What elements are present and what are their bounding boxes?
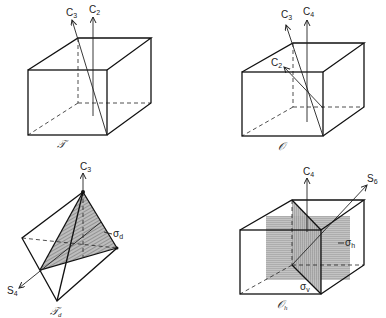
c3-axis-O bbox=[286, 25, 323, 136]
cube-O bbox=[242, 43, 364, 136]
label-c3-T: C3 bbox=[66, 7, 77, 19]
cube-T bbox=[28, 38, 151, 135]
group-label-O: 𝒪 bbox=[278, 140, 288, 152]
c3-axis-T bbox=[72, 20, 107, 135]
label-c3-O: C3 bbox=[281, 9, 292, 21]
label-c4-Oh: C4 bbox=[303, 166, 314, 178]
panel-T: C3 C2 𝒯 bbox=[28, 4, 151, 150]
label-s4-Td: S4 bbox=[7, 285, 18, 297]
label-c4-O: C4 bbox=[303, 6, 314, 18]
c2-axis-O bbox=[284, 67, 323, 108]
vertex-right bbox=[116, 247, 119, 250]
group-label-T: 𝒯 bbox=[57, 138, 69, 150]
label-s6-Oh: S6 bbox=[367, 173, 378, 185]
label-sigma-h: σh bbox=[345, 237, 355, 249]
label-c2-O: C2 bbox=[271, 57, 282, 69]
panel-O: C3 C4 C2 𝒪 bbox=[242, 6, 364, 152]
panel-Oh: C4 S6 σh σv 𝒪h bbox=[240, 166, 378, 312]
group-label-Td: 𝒯d bbox=[50, 305, 62, 318]
label-c2-T: C2 bbox=[89, 4, 100, 16]
symmetry-elements-diagram: C3 C2 𝒯 C3 C4 C2 𝒪 bbox=[0, 0, 386, 318]
group-label-Oh: 𝒪h bbox=[277, 298, 288, 312]
panel-Td: C3 S4 σd 𝒯d bbox=[7, 161, 123, 318]
label-sigma-d: σd bbox=[113, 228, 123, 240]
label-sigma-v: σv bbox=[300, 281, 310, 293]
label-c3-Td: C3 bbox=[80, 161, 91, 173]
